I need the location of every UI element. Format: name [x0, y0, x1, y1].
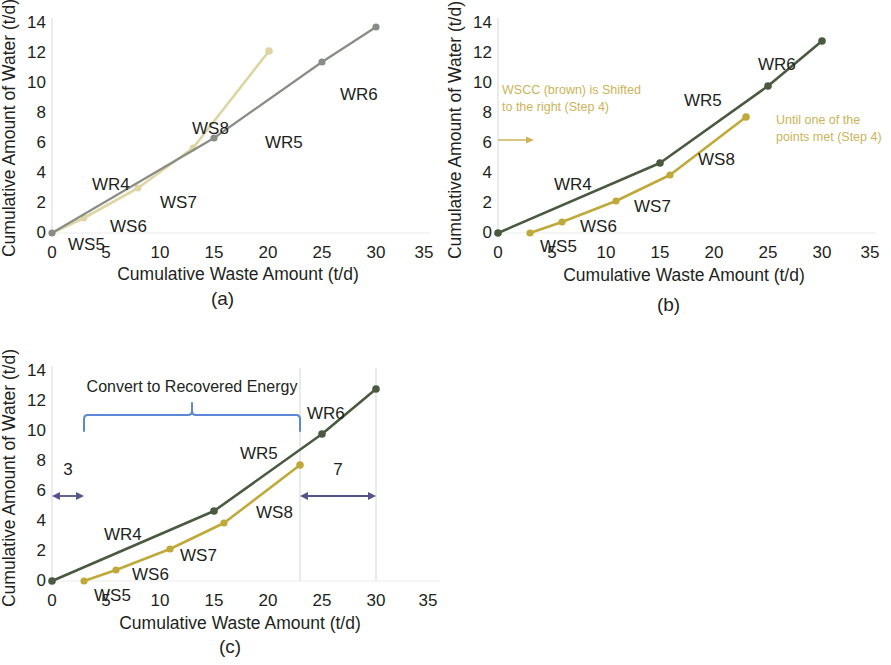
- y-axis-title-a: Cumulative Amount of Water (t/d): [0, 0, 19, 257]
- x-tick-c-15: 15: [205, 591, 224, 610]
- label-a-ws5: WS5: [68, 235, 105, 254]
- label-a-ws6: WS6: [110, 217, 147, 236]
- y-tick-c-8: 8: [37, 451, 46, 470]
- annotation-shift-line1: WSCC (brown) is Shifted: [502, 83, 641, 97]
- y-tick-b-14: 14: [473, 13, 492, 32]
- y-tick-c-2: 2: [37, 541, 46, 560]
- recovered-energy-bracket-icon: [84, 403, 300, 431]
- y-tick-a-0: 0: [37, 223, 46, 242]
- label-b-ws5: WS5: [540, 237, 577, 256]
- y-tick-b-10: 10: [473, 73, 492, 92]
- y-tick-a-2: 2: [37, 193, 46, 212]
- y-tick-b-0: 0: [483, 223, 492, 242]
- x-tick-c-10: 10: [151, 591, 170, 610]
- y-tick-a-14: 14: [27, 13, 46, 32]
- y-tick-b-12: 12: [473, 43, 492, 62]
- dimension-label-left: 3: [63, 460, 72, 479]
- dimension-label-right: 7: [333, 460, 342, 479]
- label-a-ws8: WS8: [192, 119, 229, 138]
- label-b-ws8: WS8: [698, 150, 735, 169]
- label-c-ws6: WS6: [132, 565, 169, 584]
- label-b-wr4: WR4: [554, 175, 592, 194]
- x-tick-c-25: 25: [313, 591, 332, 610]
- label-a-wr6: WR6: [340, 85, 378, 104]
- x-tick-a-10: 10: [151, 243, 170, 262]
- label-b-ws7: WS7: [634, 197, 671, 216]
- x-tick-a-35: 35: [415, 243, 434, 262]
- y-tick-c-14: 14: [27, 361, 46, 380]
- y-tick-a-12: 12: [27, 43, 46, 62]
- y-tick-c-6: 6: [37, 481, 46, 500]
- panel-c: Cumulative Amount of Water (t/d) 14 12 1…: [0, 318, 460, 665]
- label-a-wr4: WR4: [92, 175, 130, 194]
- wscc-markers-c: [80, 461, 303, 584]
- x-axis-title-c: Cumulative Waste Amount (t/d): [119, 613, 361, 633]
- dimension-arrow-left-icon: [52, 492, 84, 500]
- label-c-ws7: WS7: [180, 546, 217, 565]
- label-c-wr6: WR6: [307, 404, 345, 423]
- x-tick-a-5: 5: [101, 243, 110, 262]
- x-axis-title-b: Cumulative Waste Amount (t/d): [563, 265, 805, 285]
- label-a-wr5: WR5: [265, 133, 303, 152]
- x-tick-b-25: 25: [759, 243, 778, 262]
- panel-b: Cumulative Amount of Water (t/d) 14 12 1…: [446, 0, 891, 320]
- y-tick-b-8: 8: [483, 103, 492, 122]
- x-tick-c-5: 5: [101, 591, 110, 610]
- y-axis-title-b: Cumulative Amount of Water (t/d): [446, 1, 465, 259]
- label-b-ws6: WS6: [580, 217, 617, 236]
- y-tick-c-0: 0: [37, 571, 46, 590]
- chart-b: Cumulative Amount of Water (t/d) 14 12 1…: [446, 0, 891, 295]
- chart-a: Cumulative Amount of Water (t/d) 14 12 1…: [0, 0, 445, 290]
- y-axis-title-c: Cumulative Amount of Water (t/d): [0, 349, 19, 607]
- y-tick-b-2: 2: [483, 193, 492, 212]
- x-tick-c-20: 20: [259, 591, 278, 610]
- label-b-wr6: WR6: [758, 55, 796, 74]
- label-c-ws8: WS8: [256, 503, 293, 522]
- x-tick-a-25: 25: [313, 243, 332, 262]
- bracket-label-convert: Convert to Recovered Energy: [87, 378, 298, 395]
- label-c-wr4: WR4: [104, 525, 142, 544]
- annotation-shift-line2: to the right (Step 4): [502, 100, 609, 114]
- y-tick-b-4: 4: [483, 163, 492, 182]
- x-tick-a-0: 0: [47, 243, 56, 262]
- panel-a-caption: (a): [0, 288, 445, 310]
- panel-b-caption: (b): [446, 294, 891, 316]
- y-tick-a-8: 8: [37, 103, 46, 122]
- x-axis-title-a: Cumulative Waste Amount (t/d): [117, 264, 359, 284]
- x-tick-b-5: 5: [547, 243, 556, 262]
- x-tick-b-15: 15: [651, 243, 670, 262]
- x-tick-a-20: 20: [259, 243, 278, 262]
- y-tick-c-4: 4: [37, 511, 46, 530]
- x-tick-b-30: 30: [813, 243, 832, 262]
- y-tick-b-6: 6: [483, 133, 492, 152]
- shift-arrow-icon: [498, 137, 534, 144]
- y-tick-a-10: 10: [27, 73, 46, 92]
- panel-a: Cumulative Amount of Water (t/d) 14 12 1…: [0, 0, 445, 320]
- y-tick-c-12: 12: [27, 391, 46, 410]
- label-b-wr5: WR5: [684, 91, 722, 110]
- x-tick-b-10: 10: [597, 243, 616, 262]
- x-tick-b-20: 20: [705, 243, 724, 262]
- annotation-met-line1: Until one of the: [776, 113, 860, 127]
- label-a-ws7: WS7: [160, 193, 197, 212]
- chart-c: Cumulative Amount of Water (t/d) 14 12 1…: [0, 318, 460, 636]
- x-tick-b-0: 0: [493, 243, 502, 262]
- x-tick-c-35: 35: [419, 591, 438, 610]
- x-tick-b-35: 35: [861, 243, 880, 262]
- annotation-met-line2: points met (Step 4): [776, 130, 882, 144]
- panel-c-caption: (c): [0, 636, 460, 658]
- dimension-arrow-right-icon: [300, 492, 376, 500]
- x-tick-c-0: 0: [47, 591, 56, 610]
- x-tick-a-15: 15: [205, 243, 224, 262]
- y-tick-c-10: 10: [27, 421, 46, 440]
- y-tick-a-4: 4: [37, 163, 46, 182]
- y-tick-a-6: 6: [37, 133, 46, 152]
- x-tick-a-30: 30: [367, 243, 386, 262]
- x-tick-c-30: 30: [367, 591, 386, 610]
- label-c-wr5: WR5: [240, 444, 278, 463]
- label-c-ws5: WS5: [94, 586, 131, 605]
